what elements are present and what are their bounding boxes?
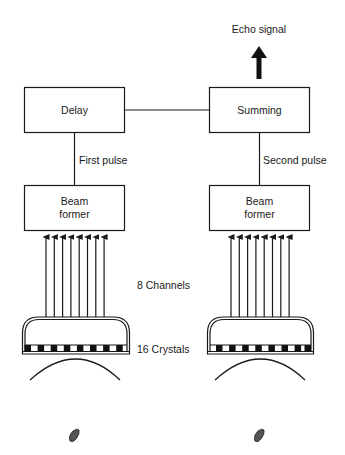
beamforming-diagram: Echo signal Delay Summing First pulse Se… [0,0,345,455]
summing-label: Summing [237,104,282,116]
transducer-left [23,317,130,380]
echo-output-arrow-icon [251,46,267,79]
channel-arrows-left [46,237,104,317]
tissue-arc-left [30,359,120,380]
beam-former-label-right-2: former [244,208,275,220]
beam-former-block-left: Beam former [25,186,125,231]
channels-label: 8 Channels [137,279,190,291]
delay-label: Delay [61,104,89,116]
channel-arrows-right [231,237,289,317]
beam-former-label-right: Beam [246,195,274,207]
crystals-label: 16 Crystals [137,343,190,355]
crystal-array-left [25,345,128,352]
second-pulse-label: Second pulse [263,154,327,166]
tissue-arc-right [215,359,305,380]
crystal-array-right [210,345,311,352]
delay-block: Delay [25,88,125,133]
echo-signal-label: Echo signal [232,23,286,35]
summing-block: Summing [210,88,310,133]
beam-former-label-left-2: former [59,208,90,220]
first-pulse-label: First pulse [79,154,128,166]
reflector-blob-left-icon [69,429,79,441]
reflector-blob-right-icon [254,429,264,441]
beam-former-label-left: Beam [61,195,89,207]
beam-former-block-right: Beam former [210,186,310,231]
transducer-right [208,317,314,380]
